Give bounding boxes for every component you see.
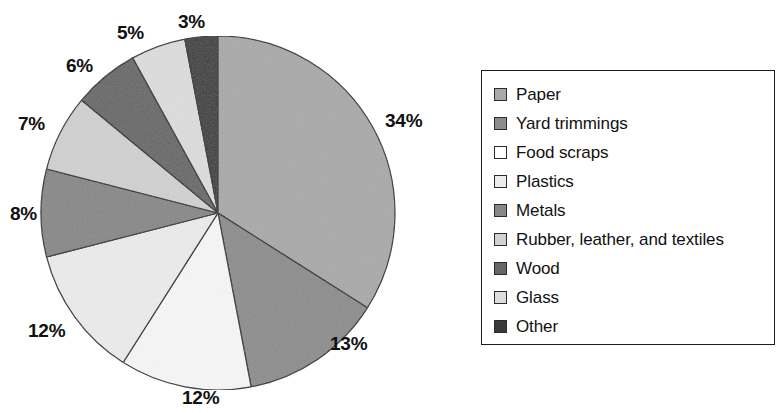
legend-item-label: Yard trimmings — [516, 109, 628, 138]
legend-item-label: Metals — [516, 196, 565, 225]
pie-slice-percentage-label: 13% — [330, 333, 367, 355]
legend-item-label: Other — [516, 312, 558, 341]
pie-slice-percentage-label: 7% — [18, 113, 45, 135]
legend-swatch-icon — [494, 262, 507, 275]
pie-slice-percentage-label: 5% — [117, 22, 144, 44]
legend-swatch-icon — [494, 88, 507, 101]
legend-swatch-icon — [494, 117, 507, 130]
legend-item[interactable]: Rubber, leather, and textiles — [494, 225, 774, 254]
legend-item-label: Plastics — [516, 167, 574, 196]
pie-slice-percentage-label: 12% — [28, 320, 65, 342]
legend-swatch-icon — [494, 146, 507, 159]
legend-item[interactable]: Other — [494, 312, 774, 341]
legend-item[interactable]: Yard trimmings — [494, 109, 774, 138]
legend-item-label: Glass — [516, 283, 559, 312]
legend-item-label: Wood — [516, 254, 560, 283]
pie-slice-percentage-label: 12% — [182, 387, 219, 409]
legend-item-label: Paper — [516, 80, 561, 109]
pie-slice-percentage-label: 34% — [385, 110, 422, 132]
legend-item[interactable]: Food scraps — [494, 138, 774, 167]
pie-slice-percentage-label: 8% — [10, 203, 37, 225]
legend-item-label: Rubber, leather, and textiles — [516, 225, 724, 254]
legend-item[interactable]: Paper — [494, 80, 774, 109]
pie-chart-area: 34%13%12%12%8%7%6%5%3% — [0, 0, 460, 413]
legend-swatch-icon — [494, 291, 507, 304]
legend-swatch-icon — [494, 320, 507, 333]
legend-item[interactable]: Metals — [494, 196, 774, 225]
chart-legend: PaperYard trimmingsFood scrapsPlasticsMe… — [481, 70, 775, 345]
legend-item[interactable]: Glass — [494, 283, 774, 312]
chart-page: 34%13%12%12%8%7%6%5%3% PaperYard trimmin… — [0, 0, 782, 413]
legend-item-label: Food scraps — [516, 138, 608, 167]
legend-item[interactable]: Plastics — [494, 167, 774, 196]
legend-swatch-icon — [494, 233, 507, 246]
legend-swatch-icon — [494, 204, 507, 217]
legend-swatch-icon — [494, 175, 507, 188]
legend-item[interactable]: Wood — [494, 254, 774, 283]
pie-slice-percentage-label: 3% — [178, 11, 205, 33]
pie-slice-percentage-label: 6% — [66, 55, 93, 77]
